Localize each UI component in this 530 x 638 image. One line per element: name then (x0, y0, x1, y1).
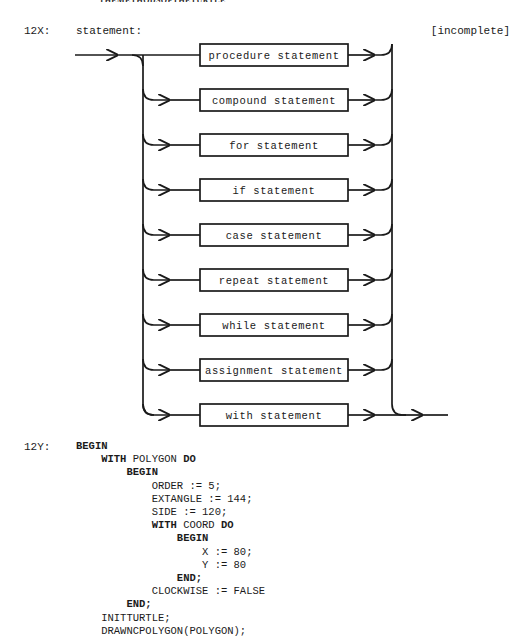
diagram-boxes: procedure statementcompound statementfor… (200, 44, 348, 426)
railroad-box-label: procedure statement (208, 50, 339, 62)
pascal-code-listing: BEGIN WITH POLYGON DO BEGIN ORDER := 5; … (76, 440, 265, 638)
listing-number-label: 12Y: (24, 441, 50, 453)
railroad-box-label: with statement (226, 410, 323, 422)
railroad-box-label: case statement (226, 230, 323, 242)
railroad-diagram: procedure statementcompound statementfor… (0, 0, 530, 440)
railroad-box-label: repeat statement (219, 275, 329, 287)
railroad-box-label: if statement (233, 185, 316, 197)
railroad-box-label: for statement (229, 140, 319, 152)
railroad-box-label: compound statement (212, 95, 336, 107)
railroad-box-label: while statement (222, 320, 326, 332)
railroad-box-label: assignment statement (205, 365, 343, 377)
